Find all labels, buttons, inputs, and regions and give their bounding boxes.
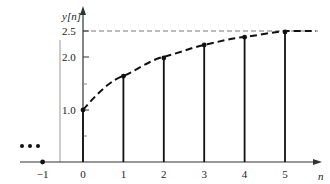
ytick-2.5: 2.5 xyxy=(62,25,76,37)
xtick-label: 2 xyxy=(161,168,167,180)
ytick-1.0: 1.0 xyxy=(62,104,76,116)
xtick-label: 4 xyxy=(242,168,248,180)
stem-chart: 2.5 2.0 1.0 y[n] n −1012345 xyxy=(0,0,330,184)
x-axis-arrow-icon xyxy=(313,159,322,165)
y-label: y[n] xyxy=(61,10,81,22)
x-ticks: −1012345 xyxy=(37,168,289,180)
ellipsis-dots xyxy=(20,144,40,148)
stem-marker xyxy=(202,43,207,48)
stem-marker xyxy=(161,56,166,61)
xtick-label: 5 xyxy=(282,168,288,180)
ytick-2.0: 2.0 xyxy=(62,51,76,63)
xtick-label: 1 xyxy=(121,168,127,180)
xtick-label: 3 xyxy=(201,168,207,180)
envelope-curve xyxy=(83,31,316,110)
stem-marker xyxy=(242,35,247,40)
xtick-label: −1 xyxy=(37,168,49,180)
stems xyxy=(40,30,287,165)
stem-marker xyxy=(283,30,288,35)
stem-marker xyxy=(40,160,45,165)
stem-marker xyxy=(121,74,126,79)
stem-marker xyxy=(81,108,86,113)
x-label: n xyxy=(318,170,324,182)
xtick-label: 0 xyxy=(80,168,86,180)
